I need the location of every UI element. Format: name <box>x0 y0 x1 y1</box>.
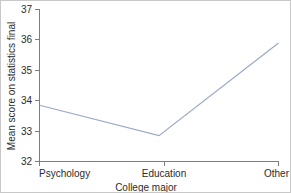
y-tick-label-36: 36 <box>21 34 33 45</box>
x-tick-label-other: Other <box>264 168 290 179</box>
x-tick-label-education: Education <box>142 168 186 179</box>
data-series-line <box>40 43 279 136</box>
y-tick-label-34: 34 <box>21 95 33 106</box>
y-tick-label-35: 35 <box>21 65 33 76</box>
x-axis-title: College major <box>115 182 177 193</box>
y-tick-label-32: 32 <box>21 156 33 167</box>
x-tick-label-psychology: Psychology <box>39 168 90 179</box>
line-chart: 37 36 35 34 33 32 Psychology Education O… <box>1 1 291 193</box>
chart-figure: 37 36 35 34 33 32 Psychology Education O… <box>0 0 291 193</box>
y-tick-label-37: 37 <box>21 4 33 15</box>
y-axis-title: Mean score on statistics final <box>6 22 17 150</box>
y-tick-label-33: 33 <box>21 126 33 137</box>
